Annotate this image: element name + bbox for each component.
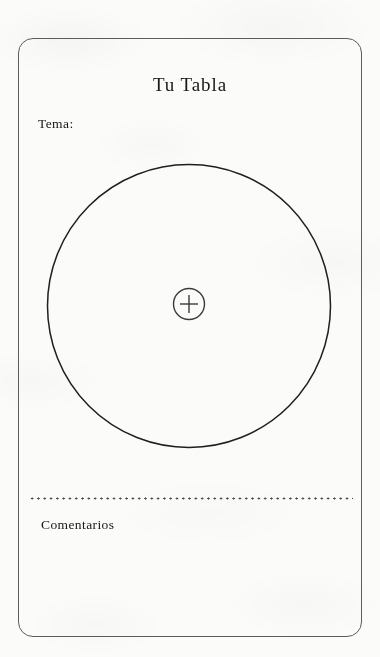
comments-separator [29, 497, 353, 500]
comments-label: Comentarios [41, 518, 114, 532]
topic-label: Tema: [38, 117, 74, 131]
page-title: Tu Tabla [19, 75, 361, 94]
wheel-diagram [19, 146, 363, 471]
worksheet-card: Tu Tabla Tema: Comentarios [18, 38, 362, 637]
plus-icon[interactable] [180, 295, 198, 313]
comments-writing-area[interactable] [33, 541, 349, 629]
